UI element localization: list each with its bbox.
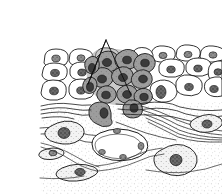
endothelial-nucleus	[138, 142, 144, 149]
tumor-cell	[97, 86, 117, 104]
invasive-tumor-cell-breaching	[123, 100, 143, 118]
endothelial-nucleus	[113, 128, 120, 133]
epithelial-cell	[42, 63, 67, 81]
epithelial-cell	[186, 58, 211, 76]
epithelial-cell	[204, 77, 222, 97]
tumor-cell	[131, 70, 152, 89]
epithelial-cell	[176, 75, 202, 96]
illustration-svg	[0, 0, 222, 194]
tumor-cell	[85, 56, 100, 73]
histology-illustration	[0, 0, 222, 194]
endothelial-nucleus	[120, 154, 127, 159]
figure-panel: (c) Invasive tumor cells	[0, 0, 222, 194]
epithelial-cell	[150, 80, 177, 102]
endothelial-nucleus	[99, 149, 106, 154]
epithelial-cell	[41, 80, 66, 100]
epithelial-cell	[159, 59, 184, 77]
